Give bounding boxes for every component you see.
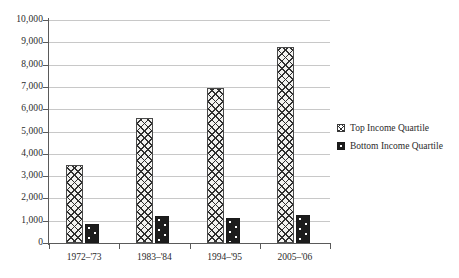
legend-item: Top Income Quartile	[337, 119, 457, 137]
legend-swatch-icon	[337, 124, 345, 132]
x-axis-category-label: 2005–'06	[250, 252, 340, 263]
legend-label: Bottom Income Quartile	[350, 141, 443, 151]
x-axis-tick-mark	[330, 244, 331, 249]
legend-item: Bottom Income Quartile	[337, 137, 457, 155]
x-axis-tick-mark	[49, 244, 50, 249]
legend-swatch-icon	[337, 142, 345, 150]
x-axis-tick-mark	[260, 244, 261, 249]
legend-label: Top Income Quartile	[350, 123, 429, 133]
x-axis-tick-mark	[190, 244, 191, 249]
x-axis-tick-mark	[119, 244, 120, 249]
bar-chart: 01,0002,0003,0004,0005,0006,0007,0008,00…	[0, 0, 459, 278]
chart-legend: Top Income QuartileBottom Income Quartil…	[337, 119, 457, 155]
